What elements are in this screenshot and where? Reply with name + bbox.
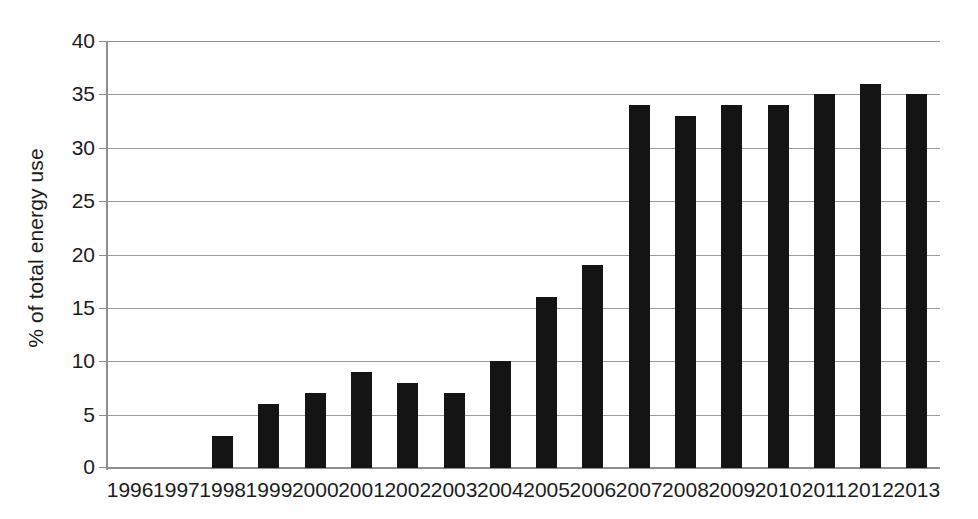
y-axis-tick-label: 25: [72, 189, 95, 213]
plot-area: 0510152025303540: [107, 41, 940, 468]
y-axis-tick-label: 5: [83, 403, 95, 427]
bar: [768, 105, 789, 468]
y-tick-mark: [99, 415, 107, 416]
x-axis-tick-label: 2002: [384, 478, 431, 502]
bar: [675, 116, 696, 468]
y-tick-mark: [99, 308, 107, 309]
bar: [305, 393, 326, 468]
x-axis-tick-label: 2006: [570, 478, 617, 502]
y-tick-mark: [99, 361, 107, 362]
bar: [906, 94, 927, 468]
x-axis-tick-label: 1997: [153, 478, 200, 502]
bar: [860, 84, 881, 468]
x-axis-tick-label: 2001: [338, 478, 385, 502]
x-axis-tick-label: 1999: [246, 478, 293, 502]
x-axis-tick-label: 2003: [431, 478, 478, 502]
x-axis-tick-label: 2009: [708, 478, 755, 502]
x-axis-tick-label: 2012: [847, 478, 894, 502]
x-axis-tick-label: 2007: [616, 478, 663, 502]
x-axis-tick-label: 1996: [107, 478, 154, 502]
x-axis-tick-label: 2005: [523, 478, 570, 502]
y-tick-mark: [99, 467, 107, 468]
x-axis-tick-label: 2000: [292, 478, 339, 502]
gridline: 40: [107, 41, 940, 42]
bar: [582, 265, 603, 468]
y-axis-tick-label: 10: [72, 349, 95, 373]
y-axis-title: % of total energy use: [24, 108, 48, 388]
bar: [629, 105, 650, 468]
y-tick-mark: [99, 201, 107, 202]
y-tick-mark: [99, 148, 107, 149]
bar: [490, 361, 511, 468]
x-axis-tick-label: 2011: [802, 478, 847, 502]
bar: [536, 297, 557, 468]
bar: [258, 404, 279, 468]
y-tick-mark: [99, 41, 107, 42]
x-axis-tick-label: 1998: [199, 478, 246, 502]
x-axis-tick-label: 2010: [755, 478, 802, 502]
y-axis-tick-label: 15: [72, 296, 95, 320]
y-tick-mark: [99, 255, 107, 256]
bar: [721, 105, 742, 468]
y-axis-tick-label: 20: [72, 243, 95, 267]
y-axis-tick-label: 0: [83, 455, 95, 479]
x-axis-tick-label: 2004: [477, 478, 524, 502]
bar: [397, 383, 418, 468]
bar-chart-figure: % of total energy use 0510152025303540 1…: [0, 0, 978, 519]
bar: [212, 436, 233, 468]
y-axis-tick-label: 30: [72, 136, 95, 160]
y-tick-mark: [99, 94, 107, 95]
bar: [351, 372, 372, 468]
x-axis-tick-label: 2013: [894, 478, 941, 502]
bar: [444, 393, 465, 468]
bar: [814, 94, 835, 468]
y-axis-tick-label: 40: [72, 29, 95, 53]
x-axis-tick-label: 2008: [662, 478, 709, 502]
y-axis-tick-label: 35: [72, 82, 95, 106]
